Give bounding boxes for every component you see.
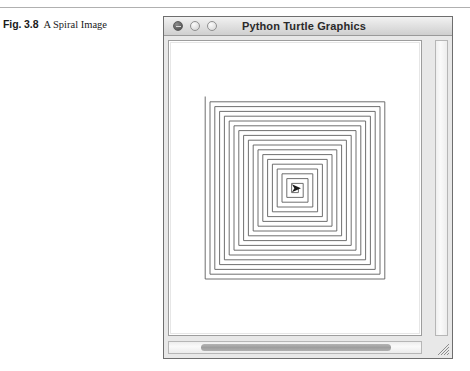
figure-title: A Spiral Image bbox=[43, 19, 107, 30]
figure-number: Fig. 3.8 bbox=[3, 18, 38, 30]
resize-grip[interactable] bbox=[436, 342, 450, 356]
maximize-icon[interactable] bbox=[207, 21, 217, 31]
top-divider-rule bbox=[0, 7, 470, 8]
turtle-cursor bbox=[292, 184, 301, 192]
window-titlebar[interactable]: Python Turtle Graphics bbox=[164, 17, 452, 36]
turtle-graphics-window: Python Turtle Graphics bbox=[163, 16, 453, 359]
spiral-drawing bbox=[202, 95, 388, 281]
horizontal-scrollbar[interactable] bbox=[168, 341, 422, 354]
window-body bbox=[164, 36, 452, 358]
minimize-icon[interactable] bbox=[190, 21, 200, 31]
turtle-canvas[interactable] bbox=[168, 40, 422, 336]
figure-caption: Fig. 3.8A Spiral Image bbox=[3, 16, 153, 31]
close-icon[interactable] bbox=[173, 21, 183, 31]
vertical-scrollbar[interactable] bbox=[435, 40, 448, 336]
window-controls bbox=[173, 21, 217, 31]
turtle-canvas-inner bbox=[170, 42, 420, 334]
horizontal-scrollbar-thumb[interactable] bbox=[201, 344, 391, 351]
